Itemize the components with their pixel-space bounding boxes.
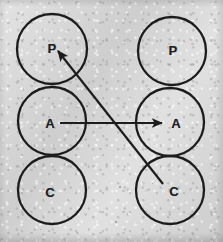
scan-speck: [86, 105, 88, 107]
circle-mapping-diagram: P A C P A C: [0, 0, 223, 242]
label-right-p: P: [169, 43, 178, 58]
label-left-c: C: [45, 185, 55, 200]
label-left-p: P: [48, 41, 57, 56]
label-right-c: C: [169, 184, 179, 199]
label-left-a: A: [45, 116, 55, 131]
label-right-a: A: [171, 116, 181, 131]
diagram-ink-layer: [0, 0, 223, 242]
scan-speck: [119, 186, 121, 188]
scan-speck: [115, 221, 117, 223]
